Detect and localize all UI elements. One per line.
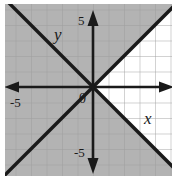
plot-panel bbox=[2, 0, 178, 179]
y-axis-tick-label-negative-5: -5 bbox=[74, 146, 85, 159]
coordinate-plane-figure: y x 5 -5 -5 0 bbox=[0, 0, 178, 181]
x-axis-tick-label-negative-5: -5 bbox=[10, 96, 21, 109]
x-axis-label: x bbox=[144, 110, 152, 127]
origin-label: 0 bbox=[79, 92, 86, 106]
y-axis-tick-label-5: 5 bbox=[78, 14, 85, 27]
y-axis-label: y bbox=[54, 26, 62, 43]
graph-canvas bbox=[0, 0, 178, 181]
